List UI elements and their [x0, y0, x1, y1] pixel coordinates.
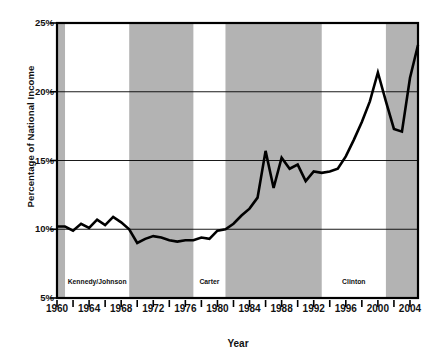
chart-canvas — [0, 0, 440, 362]
income-share-line-chart: Percentage of National Income Year 5%10%… — [0, 0, 440, 362]
